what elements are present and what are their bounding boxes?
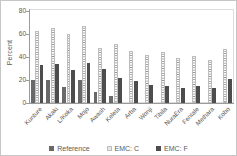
bar xyxy=(55,64,59,103)
legend-label: EMC: F xyxy=(164,145,188,152)
x-tick-label: L/Koka xyxy=(56,106,74,124)
legend-swatch xyxy=(156,146,161,151)
bar xyxy=(102,69,106,104)
bar xyxy=(196,86,200,103)
bar xyxy=(149,85,153,103)
bar xyxy=(35,31,39,103)
x-tick-label: Awash xyxy=(88,106,106,124)
bar xyxy=(82,26,86,103)
y-tick-label: 40 xyxy=(1,54,26,61)
y-tick-label: 0 xyxy=(1,100,26,107)
bar xyxy=(46,80,50,103)
bar xyxy=(94,92,98,104)
bar xyxy=(212,88,216,103)
bar xyxy=(176,58,180,103)
legend-label: Reference xyxy=(57,145,89,152)
bar-chart: Percent 020406080 KuntureAkakiL/KokaMojo… xyxy=(0,0,237,156)
y-tick-mark xyxy=(26,103,29,104)
x-tick-label: Keleta xyxy=(105,106,122,123)
bar xyxy=(223,49,227,103)
y-tick-mark xyxy=(26,11,29,12)
x-tick-label: Kobo xyxy=(217,106,232,121)
bar xyxy=(67,34,71,103)
bar xyxy=(51,28,55,103)
x-axis xyxy=(26,103,234,104)
legend-item: EMC: F xyxy=(156,145,188,152)
y-tick-mark xyxy=(26,80,29,81)
bar xyxy=(145,55,149,103)
bar xyxy=(62,87,66,103)
bar xyxy=(109,96,113,103)
legend: ReferenceEMC: CEMC: F xyxy=(1,145,236,152)
legend-swatch xyxy=(107,146,112,151)
legend-label: EMC: C xyxy=(115,145,140,152)
x-tick-label: Kunture xyxy=(23,106,43,126)
y-tick-mark xyxy=(26,34,29,35)
y-tick-mark xyxy=(26,57,29,58)
legend-swatch xyxy=(49,146,54,151)
y-tick-label: 80 xyxy=(1,8,26,15)
bar xyxy=(118,78,122,103)
bar xyxy=(78,80,82,103)
bar xyxy=(161,52,165,103)
bar xyxy=(129,51,133,103)
bar xyxy=(208,60,212,103)
bar xyxy=(98,48,102,103)
bar xyxy=(114,44,118,103)
bar xyxy=(31,80,35,103)
bar xyxy=(228,79,232,103)
x-tick-label: Wonji xyxy=(138,106,154,122)
bar xyxy=(192,56,196,103)
bar xyxy=(165,86,169,103)
bar xyxy=(71,70,75,103)
y-axis-title: Percent xyxy=(6,33,13,73)
legend-item: Reference xyxy=(49,145,89,152)
bar xyxy=(40,65,44,103)
y-tick-label: 60 xyxy=(1,31,26,38)
legend-item: EMC: C xyxy=(107,145,140,152)
bar xyxy=(181,88,185,103)
bar xyxy=(87,63,91,103)
y-tick-label: 20 xyxy=(1,77,26,84)
x-tick-label: Arba xyxy=(124,106,138,120)
bar xyxy=(134,81,138,103)
